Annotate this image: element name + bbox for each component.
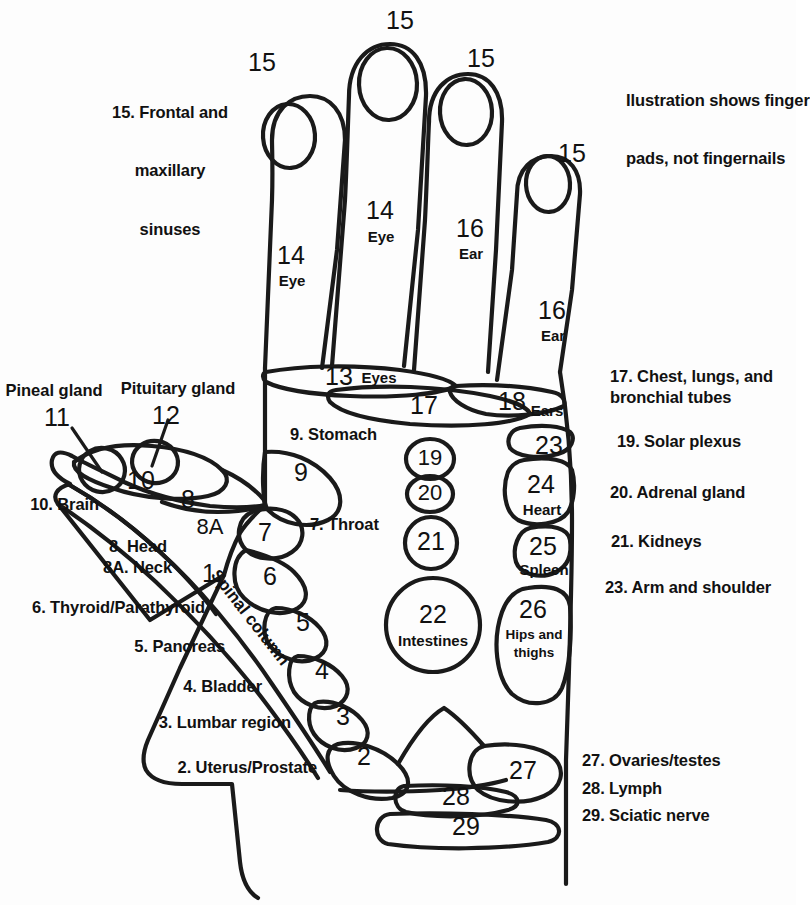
zone-27-number: 27 (509, 756, 537, 786)
zone-21-number: 21 (417, 527, 445, 557)
legend-kidneys: 21. Kidneys (611, 532, 702, 551)
zone-29-number: 29 (452, 812, 480, 842)
finger-zone-ring-num: 16 (456, 214, 484, 244)
zone-17-number: 17 (410, 391, 438, 421)
legend-arm-shoulder: 23. Arm and shoulder (605, 578, 771, 597)
legend-brain: 10. Brain (30, 495, 99, 514)
legend-thyroid: 6. Thyroid/Parathyroid (32, 598, 205, 617)
middle-finger (332, 96, 349, 366)
zone-22-name: Intestines (398, 632, 468, 650)
legend-sinuses-line1: 15. Frontal and (112, 103, 228, 122)
finger-label-pinky-15: 15 (558, 139, 586, 169)
legend-chest-line2: bronchial tubes (610, 388, 731, 407)
middle-finger-pad (358, 47, 418, 121)
zone-18-name: Ears (531, 402, 564, 420)
legend-lymph: 28. Lymph (582, 779, 662, 798)
zone-7-number: 7 (258, 518, 272, 548)
zone-26-name-line2: thighs (514, 645, 555, 661)
zone-26-number: 26 (519, 595, 547, 625)
legend-chest-line1: 17. Chest, lungs, and (610, 367, 773, 386)
legend-pancreas: 5. Pancreas (134, 637, 225, 656)
zone-23-number: 23 (535, 431, 563, 461)
legend-bladder: 4. Bladder (183, 677, 262, 696)
zone-24-name: Heart (523, 501, 561, 519)
finger-zone-ring-name: Ear (459, 245, 483, 263)
zone-13-number: 13 (325, 362, 353, 392)
zone-13-name: Eyes (361, 369, 396, 387)
finger-zone-index-num: 14 (277, 241, 305, 271)
zone-25-number: 25 (529, 532, 557, 562)
ring-finger-pad (438, 78, 493, 147)
legend-sinuses: 15. Frontal and maxillary sinuses (112, 64, 228, 278)
legend-uterus: 2. Uterus/Prostate (178, 758, 317, 777)
zone-8-number: 8 (181, 485, 195, 515)
legend-adrenal-gland: 20. Adrenal gland (610, 483, 745, 502)
finger-zone-middle-num: 14 (366, 196, 394, 226)
legend-solar-plexus: 19. Solar plexus (617, 432, 741, 451)
illustration-note-line2: pads, not fingernails (626, 149, 810, 168)
legend-sciatic: 29. Sciatic nerve (582, 806, 710, 825)
legend-lumbar: 3. Lumbar region (159, 713, 291, 732)
zone-3-number: 3 (336, 702, 350, 732)
zone-12-number: 12 (152, 401, 180, 431)
zone-28-number: 28 (442, 782, 470, 812)
index-finger-pad (261, 102, 317, 169)
legend-sinuses-line3: sinuses (112, 220, 228, 239)
legend-stomach: 9. Stomach (290, 425, 377, 444)
callout-pineal-gland: Pineal gland (5, 381, 102, 400)
finger-label-index-15: 15 (248, 48, 276, 78)
zone-26-name-line1: Hips and (505, 627, 562, 643)
zone-2-number: 2 (357, 742, 371, 772)
pinky-finger (497, 194, 517, 380)
zone-25-name: Spleen (519, 561, 568, 579)
zone-8a-number: 8A (197, 514, 224, 540)
zone-22-number: 22 (419, 600, 447, 630)
zone-20-number: 20 (418, 480, 442, 506)
finger-zone-index-name: Eye (279, 272, 306, 290)
zone-18-number: 18 (498, 387, 526, 417)
zone-24-number: 24 (527, 470, 555, 500)
zone-19-number: 19 (418, 445, 442, 471)
finger-label-middle-15: 15 (386, 6, 414, 36)
illustration-note-line1: Ilustration shows finger (626, 91, 810, 110)
legend-ovaries: 27. Ovaries/testes (582, 751, 721, 770)
finger-zone-pinky-num: 16 (538, 296, 566, 326)
zone-11-number: 11 (44, 403, 70, 433)
legend-neck: 8A. Neck (103, 558, 172, 577)
index-finger (265, 140, 272, 368)
legend-sinuses-line2: maxillary (112, 161, 228, 180)
finger-zone-middle-name: Eye (368, 228, 395, 246)
zone-6-number: 6 (263, 562, 277, 592)
zone-9-number: 9 (294, 458, 308, 488)
callout-pituitary-gland: Pituitary gland (121, 379, 236, 398)
finger-label-ring-15: 15 (467, 44, 495, 74)
illustration-note: Ilustration shows finger pads, not finge… (626, 52, 810, 208)
zone-10-number: 10 (127, 466, 155, 496)
zone-4-number: 4 (315, 656, 329, 686)
legend-throat: 7. Throat (310, 515, 379, 534)
zone-5-number: 5 (296, 608, 310, 638)
finger-zone-pinky-name: Ear (541, 327, 565, 345)
legend-head: 8. Head (109, 537, 167, 556)
